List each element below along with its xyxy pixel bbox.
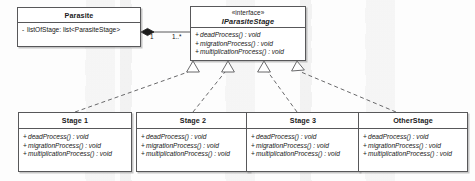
operation-text: deadProcess() : void [146,133,206,140]
multiplicity-source: 1 [150,33,154,40]
class-operations-stage2: +deadProcess() : void +migrationProcess(… [137,129,249,172]
realization-triangle [187,61,200,72]
class-box-parasite[interactable]: Parasite -listOfStage: list<ParasiteStag… [17,7,141,47]
operation-row: +deadProcess() : void [251,133,355,142]
operation-text: multiplicationProcess() : void [200,48,284,55]
realization-triangle [292,61,305,71]
class-box-otherstage[interactable]: OtherStage +deadProcess() : void +migrat… [358,112,468,172]
operation-text: deadProcess() : void [28,133,88,140]
class-operations-stage3: +deadProcess() : void +migrationProcess(… [247,129,359,172]
operation-row: +multiplicationProcess() : void [251,150,355,159]
operation-row: +multiplicationProcess() : void [23,150,127,159]
operation-text: deadProcess() : void [256,133,316,140]
class-name-stage3: Stage 3 [247,113,359,129]
operation-row: +migrationProcess() : void [141,142,245,151]
realization-otherstage [292,61,396,112]
class-name-parasite: Parasite [18,8,140,23]
operation-text: migrationProcess() : void [200,40,273,47]
operation-row: +deadProcess() : void [195,31,301,40]
operation-text: multiplicationProcess() : void [256,150,340,157]
class-name-stage1: Stage 1 [19,113,131,129]
realization-triangle [222,61,235,72]
operation-row: +multiplicationProcess() : void [363,150,463,159]
realization-triangle [258,61,271,72]
realization-stage2 [193,61,234,112]
diagram-canvas: Parasite -listOfStage: list<ParasiteStag… [0,0,475,181]
realization-stage1 [75,61,199,112]
composition-parasite-iparasitestage [141,28,190,35]
class-operations-otherstage: +deadProcess() : void +migrationProcess(… [359,129,467,172]
class-box-stage2[interactable]: Stage 2 +deadProcess() : void +migration… [136,112,250,172]
operation-row: +deadProcess() : void [23,133,127,142]
realization-stage3 [258,61,297,112]
interface-box-iparasitestage[interactable]: «interface» IParasiteStage +deadProcess(… [190,6,306,61]
operation-text: deadProcess() : void [200,31,260,38]
operation-row: +migrationProcess() : void [363,142,463,151]
interface-operations: +deadProcess() : void +migrationProcess(… [191,28,305,61]
operation-text: multiplicationProcess() : void [368,150,452,157]
operation-row: +deadProcess() : void [141,133,245,142]
operation-text: multiplicationProcess() : void [28,150,112,157]
interface-name: IParasiteStage [222,17,274,26]
operation-row: +multiplicationProcess() : void [195,48,301,57]
operation-row: +migrationProcess() : void [23,142,127,151]
operation-row: +multiplicationProcess() : void [141,150,245,159]
operation-text: migrationProcess() : void [256,142,329,149]
attribute-text: listOfStage: list<ParasiteStage> [27,26,120,33]
class-name-otherstage: OtherStage [359,113,467,129]
operation-text: migrationProcess() : void [28,142,101,149]
operation-text: migrationProcess() : void [146,142,219,149]
operation-row: +deadProcess() : void [363,133,463,142]
class-box-stage3[interactable]: Stage 3 +deadProcess() : void +migration… [246,112,360,172]
attribute-row: -listOfStage: list<ParasiteStage> [22,26,136,35]
class-name-stage2: Stage 2 [137,113,249,129]
operation-text: migrationProcess() : void [368,142,441,149]
operation-text: multiplicationProcess() : void [146,150,230,157]
operation-row: +migrationProcess() : void [195,40,301,49]
interface-header: «interface» IParasiteStage [191,7,305,28]
class-box-stage1[interactable]: Stage 1 +deadProcess() : void +migration… [18,112,132,172]
multiplicity-target: 1..* [172,33,181,40]
interface-stereotype: «interface» [232,8,265,17]
operation-text: deadProcess() : void [368,133,428,140]
class-attributes-parasite: -listOfStage: list<ParasiteStage> [18,23,140,46]
operation-row: +migrationProcess() : void [251,142,355,151]
class-operations-stage1: +deadProcess() : void +migrationProcess(… [19,129,131,172]
